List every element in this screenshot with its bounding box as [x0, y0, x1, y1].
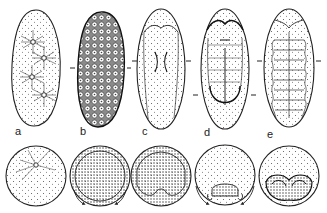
stage-label-d: d	[204, 127, 210, 138]
stage-d-surface	[193, 9, 256, 129]
stage-d-section	[195, 145, 255, 205]
stage-a-section	[6, 146, 66, 206]
stage-c-surface	[132, 9, 191, 129]
stage-label-e: e	[267, 129, 273, 140]
stage-e-surface	[257, 9, 321, 127]
stage-b-surface	[70, 12, 131, 127]
stage-b-section	[70, 146, 130, 206]
embryo-diagram	[0, 0, 327, 213]
stage-e-section	[259, 146, 319, 206]
stage-label-b: b	[80, 126, 86, 137]
stage-a-surface	[12, 10, 61, 126]
stage-label-c: c	[142, 126, 148, 137]
stage-c-section	[131, 146, 191, 206]
stage-label-a: a	[15, 126, 21, 137]
